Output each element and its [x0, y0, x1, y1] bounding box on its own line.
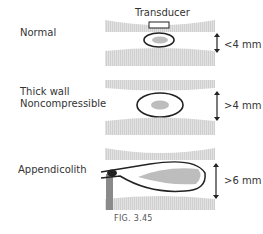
- panel-label-thick-wall-2: Noncompressible: [20, 98, 106, 110]
- lumen: [138, 168, 201, 184]
- transducer-label: Transducer: [135, 7, 190, 19]
- measurement-appendicolith: >6 mm: [224, 175, 261, 187]
- transducer-icon: [149, 22, 169, 28]
- measurement-normal: <4 mm: [224, 39, 261, 51]
- panel-appendicolith: [101, 148, 219, 210]
- figure-caption: FIG. 3.45: [114, 214, 153, 223]
- appendicolith-stone: [107, 170, 117, 177]
- panel-normal: [105, 20, 220, 66]
- lower-tissue: [105, 48, 215, 66]
- upper-tissue: [105, 148, 215, 160]
- panel-label-normal: Normal: [20, 27, 56, 39]
- acoustic-shadow: [106, 174, 113, 210]
- lower-tissue: [105, 118, 215, 136]
- panel-label-thick-wall-1: Thick wall: [20, 86, 70, 98]
- panel-thick-wall: [105, 80, 220, 135]
- panel-label-appendicolith: Appendicolith: [18, 164, 87, 176]
- lumen: [152, 37, 168, 44]
- lumen: [151, 101, 169, 110]
- measurement-thick-wall: >4 mm: [224, 100, 261, 112]
- upper-tissue: [105, 80, 215, 91]
- lower-tissue: [105, 196, 215, 210]
